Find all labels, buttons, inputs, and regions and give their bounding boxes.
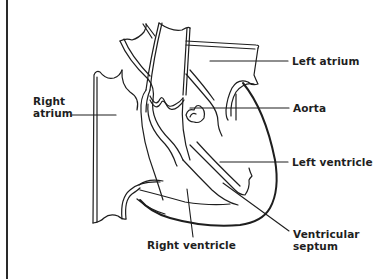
label-right-ventricle: Right ventricle xyxy=(147,239,236,251)
right-atrium-shape xyxy=(93,70,163,223)
pulmonary-artery-shape xyxy=(120,24,183,166)
leader-ventricular-septum xyxy=(223,183,289,231)
label-right-atrium-line1: Right xyxy=(33,95,73,107)
label-left-ventricle: Left ventricle xyxy=(292,156,373,168)
label-ventricular-septum: Ventricular septum xyxy=(293,228,360,252)
leader-lines xyxy=(72,61,289,237)
label-right-atrium: Right atrium xyxy=(33,95,73,119)
label-septum-line2: septum xyxy=(293,240,360,252)
label-left-atrium: Left atrium xyxy=(292,55,359,67)
label-septum-line1: Ventricular xyxy=(293,228,360,240)
label-aorta: Aorta xyxy=(293,102,326,114)
label-right-atrium-line2: atrium xyxy=(33,107,73,119)
septum-walls xyxy=(183,70,252,205)
leader-right-ventricle xyxy=(187,189,193,237)
